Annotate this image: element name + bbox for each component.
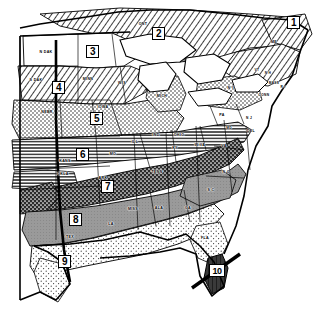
zone-badge-4[interactable]: 4 [52, 81, 65, 94]
zone-map-figure: 1 2 3 4 5 6 7 8 9 10 ONT N DAK S DAK MIN… [0, 0, 315, 314]
map-canvas [0, 0, 315, 314]
state-label-vt: VT [255, 68, 260, 72]
state-label-del: DEL [247, 129, 255, 133]
zone-badge-3[interactable]: 3 [86, 45, 99, 58]
state-label-conn: CONN [259, 93, 270, 97]
state-label-ny: N Y [228, 86, 235, 90]
state-label-mich: MICH [157, 94, 168, 98]
state-label-fla: FLA [201, 236, 209, 240]
state-label-sc: S C [207, 188, 214, 192]
zone-badge-6[interactable]: 6 [76, 148, 89, 161]
state-label-ri: R I [280, 85, 285, 89]
state-label-iowa: IOWA [98, 105, 109, 109]
state-label-va: VA [221, 144, 226, 148]
state-label-nc: N C [222, 170, 229, 174]
state-label-nh: N H [265, 71, 272, 75]
state-label-tenn: TENN [151, 170, 162, 174]
state-label-tex: TEX [66, 235, 74, 239]
state-label-minn: MINN [83, 77, 94, 81]
state-label-ga: GA [185, 206, 191, 210]
zone-badge-9[interactable]: 9 [58, 255, 71, 268]
zone-badge-2[interactable]: 2 [152, 27, 165, 40]
zone-badge-10[interactable]: 10 [209, 264, 225, 277]
state-label-ill: ILL [132, 140, 138, 144]
state-label-la: LA [108, 222, 114, 226]
state-label-ark: ARK [99, 176, 108, 180]
state-label-wva: W VA [195, 143, 206, 147]
zone-badge-5[interactable]: 5 [90, 112, 103, 125]
state-label-mo: MO [110, 152, 117, 156]
state-label-sdak: S DAK [30, 78, 43, 82]
state-label-ky: KY [172, 146, 178, 150]
state-label-pa: PA [219, 113, 224, 117]
state-label-okla: OKLA [57, 172, 69, 176]
state-label-kans: KANS [59, 159, 71, 163]
state-label-ohio: OHIO [174, 133, 185, 137]
state-label-ind: IND [152, 133, 159, 137]
state-label-mass: MASS [269, 81, 280, 85]
state-label-ala: ALA [155, 206, 163, 210]
zone-badge-7[interactable]: 7 [101, 180, 114, 193]
state-label-ont: ONT [139, 22, 148, 26]
state-label-md: MD [226, 126, 232, 130]
state-label-wis: WIS [118, 81, 126, 85]
state-label-ndak: N DAK [39, 50, 52, 54]
state-label-miss: MISS [128, 207, 138, 211]
state-label-nebr: NEBR [41, 110, 53, 114]
zone-badge-8[interactable]: 8 [69, 213, 82, 226]
state-label-nj: N J [246, 116, 252, 120]
state-label-me: ME [271, 40, 277, 44]
zone-badge-1[interactable]: 1 [287, 16, 300, 29]
